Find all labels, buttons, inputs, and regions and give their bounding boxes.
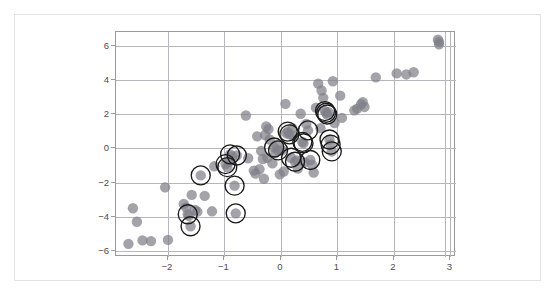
scatter-plot-canvas bbox=[116, 32, 456, 257]
data-point bbox=[328, 76, 338, 86]
x-tick-label: 3 bbox=[447, 261, 452, 272]
data-point bbox=[186, 190, 196, 200]
x-tick-label: 1 bbox=[334, 261, 339, 272]
x-tick-label: −1 bbox=[218, 261, 229, 272]
data-point bbox=[259, 174, 269, 184]
y-tick-label: 4 bbox=[81, 73, 109, 84]
data-point bbox=[263, 124, 273, 134]
data-point bbox=[280, 99, 290, 109]
x-tick-label: 2 bbox=[390, 261, 395, 272]
data-point bbox=[123, 239, 133, 249]
scatter-plot-area bbox=[115, 31, 455, 256]
data-point bbox=[241, 110, 251, 120]
y-tick-label: 2 bbox=[81, 108, 109, 119]
data-point bbox=[185, 221, 195, 231]
data-point bbox=[323, 107, 333, 117]
y-tick-label: −2 bbox=[81, 176, 109, 187]
data-point bbox=[207, 206, 217, 216]
data-point bbox=[199, 191, 209, 201]
x-tick-label: −2 bbox=[162, 261, 173, 272]
figure-root: −6−4−20246 −2−10123 bbox=[0, 0, 557, 295]
data-point bbox=[128, 203, 138, 213]
data-point bbox=[196, 170, 206, 180]
data-point bbox=[146, 236, 156, 246]
y-tick-label: −4 bbox=[81, 210, 109, 221]
data-point bbox=[335, 90, 345, 100]
data-point bbox=[434, 37, 444, 47]
y-tick-label: 6 bbox=[81, 39, 109, 50]
data-point bbox=[254, 164, 264, 174]
data-point bbox=[229, 180, 239, 190]
data-point bbox=[231, 208, 241, 218]
data-point bbox=[337, 113, 347, 123]
data-point bbox=[392, 68, 402, 78]
data-point bbox=[359, 102, 369, 112]
data-point bbox=[160, 182, 170, 192]
data-point bbox=[163, 235, 173, 245]
data-point bbox=[371, 72, 381, 82]
y-tick-label: 0 bbox=[81, 142, 109, 153]
data-point bbox=[295, 109, 305, 119]
data-point bbox=[132, 217, 142, 227]
data-point bbox=[327, 146, 337, 156]
data-point bbox=[408, 67, 418, 77]
x-tick-label: 0 bbox=[277, 261, 282, 272]
y-tick-label: −6 bbox=[81, 245, 109, 256]
